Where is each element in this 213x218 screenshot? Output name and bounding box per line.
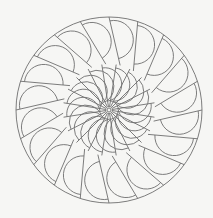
- inner-petal-ring: [64, 65, 155, 156]
- outer-petal-arc: [110, 20, 133, 58]
- mandala-artwork: [0, 0, 213, 218]
- inner-petal-arc: [115, 114, 147, 138]
- outer-petal-edge: [133, 22, 137, 71]
- outer-petal-edge: [155, 81, 198, 107]
- outer-petal-edge: [21, 113, 64, 139]
- outer-petal-edge: [109, 17, 120, 65]
- outer-petal-arc: [160, 111, 198, 134]
- outer-petal-arc: [107, 162, 136, 198]
- outer-petal-arc: [85, 161, 108, 199]
- outer-petal-edge: [80, 22, 106, 65]
- outer-petal-arc: [161, 83, 197, 112]
- outer-petal-arc: [82, 22, 111, 58]
- center-dot: [107, 108, 111, 112]
- outer-petal-edge: [54, 35, 91, 68]
- outer-petal-edge: [98, 155, 109, 203]
- inner-petal-arc: [81, 116, 105, 148]
- outer-petal-edge: [148, 134, 197, 138]
- outer-petal-ring: [16, 17, 202, 203]
- outer-petal-edge: [34, 127, 67, 164]
- outer-circle: [16, 17, 202, 203]
- inner-petal-arc: [71, 82, 103, 106]
- outer-petal-edge: [16, 99, 64, 110]
- outer-petal-edge: [126, 153, 163, 186]
- outer-petal-arc: [19, 86, 57, 109]
- outer-petal-arc: [21, 108, 57, 137]
- outer-petal-edge: [154, 110, 202, 121]
- outer-petal-edge: [21, 81, 70, 85]
- inner-petal-arc: [113, 72, 137, 104]
- outer-petal-edge: [112, 156, 138, 199]
- outer-petal-edge: [152, 55, 185, 92]
- outer-petal-edge: [80, 149, 84, 198]
